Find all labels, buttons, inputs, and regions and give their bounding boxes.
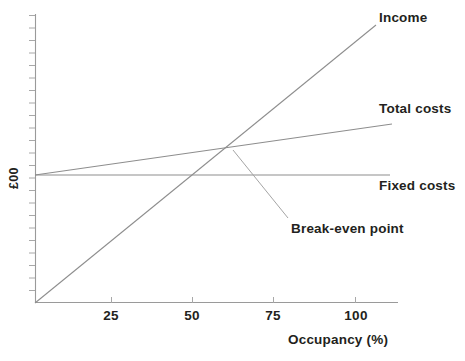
x-tick-label-100: 100 [344,308,367,323]
series-label-fixed-costs: Fixed costs [379,178,455,193]
axes-group [35,14,398,303]
y-axis-title: £00 [7,167,21,189]
x-axis-title: Occupancy (%) [288,332,388,347]
chart-canvas: Income Total costs Fixed costs Break-eve… [0,0,465,361]
x-tick-label-75: 75 [265,308,281,323]
series-label-total-costs: Total costs [379,101,451,116]
x-tick-label-25: 25 [103,308,119,323]
break-even-leader [233,150,288,218]
x-tick-label-50: 50 [184,308,200,323]
annotation-break-even-point: Break-even point [291,221,404,236]
series-group [35,25,392,303]
series-line-total-costs [35,124,392,175]
series-label-income: Income [379,10,428,25]
break-even-chart: Income Total costs Fixed costs Break-eve… [0,0,465,361]
y-axis-ticks [29,16,35,291]
series-line-income [35,25,376,303]
